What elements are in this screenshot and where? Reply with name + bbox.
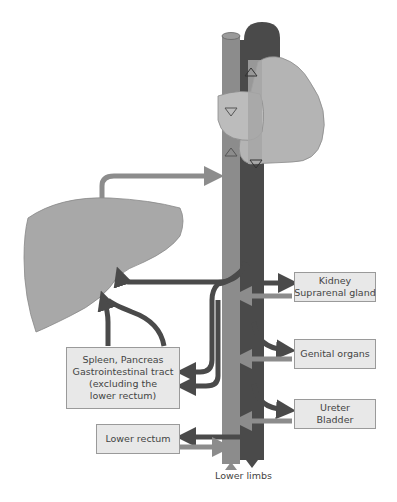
label-lower-limbs: Lower limbs bbox=[215, 470, 272, 481]
label-kidney: Kidney Suprarenal gland bbox=[294, 272, 376, 302]
liver bbox=[24, 198, 183, 332]
spleen-to-liver-arrow bbox=[104, 300, 108, 346]
label-spleen-gi: Spleen, Pancreas Gastrointestinal tract … bbox=[66, 347, 180, 409]
hepatic-vein-arrow bbox=[102, 176, 214, 198]
label-lower-rectum: Lower rectum bbox=[96, 424, 180, 454]
circulation-diagram: Kidney Suprarenal gland Genital organs U… bbox=[0, 0, 397, 502]
label-ureter-bladder: Ureter Bladder bbox=[294, 399, 376, 429]
label-genital-organs: Genital organs bbox=[294, 339, 376, 369]
gi-to-liver-arrow bbox=[108, 300, 164, 346]
